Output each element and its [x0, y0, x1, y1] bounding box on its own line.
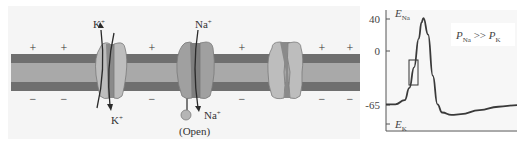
- svg-text:−: −: [347, 92, 354, 106]
- y-tick-label: 0: [375, 45, 381, 57]
- inactivation-ball-icon: [181, 110, 191, 120]
- membrane-diagram: + + + + + + − − − − − − K+ K+: [0, 0, 362, 149]
- svg-text:+: +: [149, 41, 156, 55]
- y-tick-label: -65: [365, 99, 380, 111]
- svg-text:+: +: [239, 41, 246, 55]
- svg-text:+: +: [347, 41, 354, 55]
- svg-text:−: −: [149, 92, 156, 106]
- chart-svg: 40 0 -65 ENa EK PNa >> PK: [360, 0, 517, 149]
- action-potential-chart: 40 0 -65 ENa EK PNa >> PK: [360, 0, 517, 149]
- svg-text:−: −: [30, 92, 37, 106]
- svg-text:+: +: [30, 41, 37, 55]
- svg-text:−: −: [319, 92, 326, 106]
- svg-text:−: −: [61, 92, 68, 106]
- svg-text:−: −: [239, 92, 246, 106]
- open-state-label: (Open): [179, 125, 210, 138]
- y-tick-label: 40: [369, 13, 381, 25]
- svg-text:+: +: [61, 41, 68, 55]
- membrane-svg: + + + + + + − − − − − − K+ K+: [0, 0, 362, 149]
- svg-text:+: +: [319, 41, 326, 55]
